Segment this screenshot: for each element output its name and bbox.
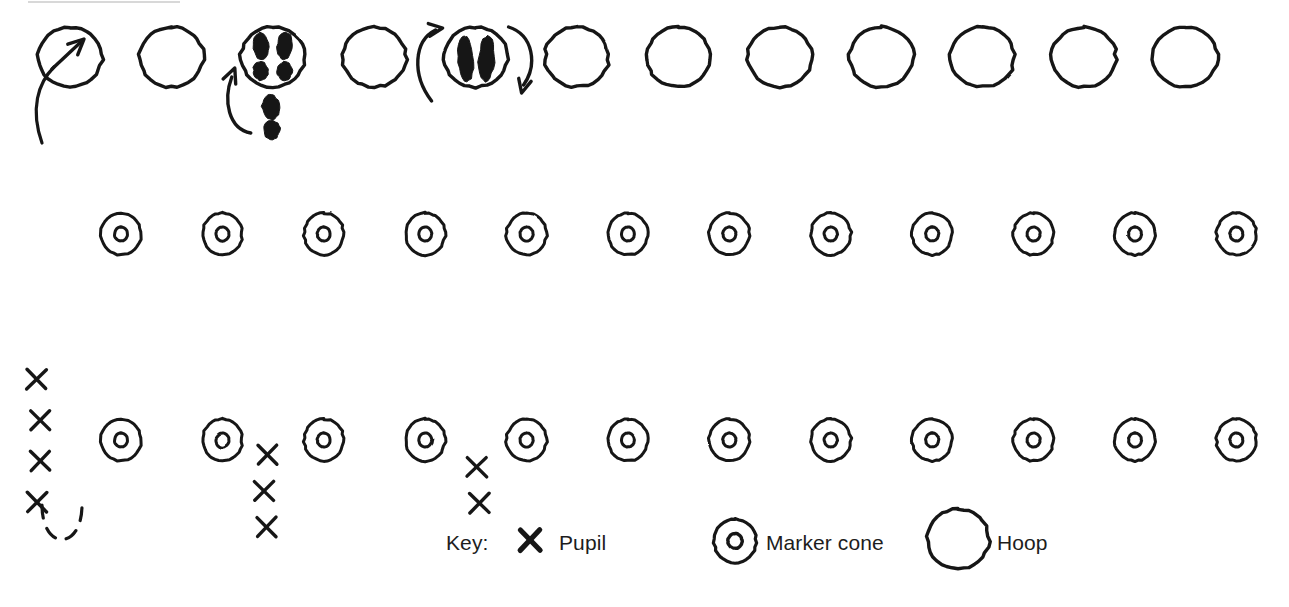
hoop-row bbox=[37, 26, 1218, 88]
marker-cone bbox=[506, 213, 548, 255]
marker-cone-inner bbox=[216, 433, 229, 447]
marker-cone bbox=[911, 213, 952, 256]
marker-cone-inner bbox=[1230, 227, 1243, 241]
marker-cone-inner bbox=[926, 227, 939, 241]
marker-cone bbox=[203, 418, 242, 460]
run-in-arrow-tail bbox=[36, 67, 54, 143]
marker-cone-outer bbox=[506, 419, 548, 461]
marker-cone-outer bbox=[811, 419, 852, 462]
marker-cone-outer bbox=[303, 212, 344, 255]
footprint-left-heel bbox=[253, 61, 268, 80]
marker-cone bbox=[1114, 418, 1155, 461]
marker-cone bbox=[506, 419, 548, 461]
legend-icons-layer bbox=[520, 509, 990, 569]
marker-cone-inner bbox=[621, 433, 634, 447]
hoop bbox=[443, 27, 508, 88]
marker-cone-inner bbox=[317, 227, 330, 241]
queue-lane-one bbox=[27, 369, 50, 512]
marker-cone-outer bbox=[608, 213, 648, 255]
marker-cone-outer bbox=[1114, 418, 1155, 461]
hoop bbox=[545, 27, 609, 88]
marker-cone-inner bbox=[1230, 433, 1243, 447]
marker-cone bbox=[100, 419, 141, 461]
pupil-marks-layer bbox=[27, 369, 490, 537]
marker-cone-inner bbox=[1128, 227, 1141, 241]
marker-cone bbox=[203, 212, 242, 254]
queue-lane-two bbox=[254, 445, 277, 537]
marker-cone-inner bbox=[115, 227, 128, 241]
hoop bbox=[747, 27, 813, 88]
footprint-right-ball bbox=[277, 32, 293, 60]
rotate-right-arrow-tail bbox=[509, 27, 532, 85]
marker-cone-outer bbox=[406, 212, 446, 255]
marker-cone-outer bbox=[608, 419, 648, 461]
marker-cone-outer bbox=[100, 213, 141, 255]
hop-arrow-tail bbox=[228, 77, 251, 133]
marker-cone bbox=[1013, 419, 1054, 461]
marker-cone-inner bbox=[520, 227, 533, 241]
marker-cone-inner bbox=[216, 227, 229, 241]
marker-cone-inner bbox=[926, 433, 939, 447]
marker-cone-outer bbox=[1114, 212, 1155, 255]
footprint-takeoff-heel bbox=[264, 121, 281, 140]
legend-hoop-outline bbox=[927, 509, 991, 569]
marker-cone bbox=[608, 419, 648, 461]
marker-cone-inner bbox=[520, 433, 533, 447]
marker-cone bbox=[100, 213, 141, 255]
marker-cone-inner bbox=[824, 227, 838, 241]
footprint-right-together bbox=[478, 35, 495, 82]
marker-cone-outer bbox=[100, 419, 141, 461]
marker-cone-outer bbox=[708, 213, 749, 255]
marker-cone bbox=[406, 418, 446, 461]
marker-cone bbox=[1114, 212, 1155, 255]
marker-cone-outer bbox=[1013, 213, 1054, 255]
marker-cone-outer bbox=[1216, 419, 1256, 461]
marker-cone bbox=[303, 418, 344, 461]
diagram-stage: Key: Pupil Marker cone Hoop bbox=[0, 0, 1289, 607]
marker-cone bbox=[811, 213, 852, 256]
marker-cone bbox=[303, 212, 344, 255]
marker-cone-inner bbox=[419, 227, 432, 241]
marker-cone bbox=[1216, 213, 1256, 255]
queue-lane-three bbox=[467, 458, 489, 513]
marker-cone-inner bbox=[723, 433, 736, 447]
footprint-left-ball bbox=[253, 32, 269, 60]
legend-cone-outer bbox=[713, 518, 756, 563]
hoop bbox=[1152, 27, 1219, 87]
marker-cone-inner bbox=[419, 433, 432, 447]
marker-cone bbox=[608, 213, 648, 255]
marker-cone bbox=[811, 419, 852, 462]
marker-cone-inner bbox=[115, 433, 128, 447]
marker-cone-inner bbox=[621, 227, 634, 241]
marker-cone bbox=[406, 212, 446, 255]
marker-cone-inner bbox=[1027, 433, 1040, 447]
marker-cone bbox=[911, 419, 952, 462]
legend-hoop-icon bbox=[927, 509, 991, 569]
marker-cone-row-middle bbox=[100, 212, 1256, 255]
marker-cone-outer bbox=[911, 213, 952, 256]
marker-cone-outer bbox=[1216, 213, 1256, 255]
lane-lines-layer bbox=[42, 70, 465, 540]
marker-cone-inner bbox=[317, 433, 330, 447]
marker-cone bbox=[708, 419, 749, 461]
rotate-left-arrow-tail bbox=[418, 30, 436, 101]
diagram-canvas bbox=[0, 0, 1289, 607]
hoop bbox=[240, 27, 305, 88]
marker-cone-outer bbox=[203, 418, 242, 460]
marker-cone-outer bbox=[506, 213, 548, 255]
hoop bbox=[342, 26, 407, 87]
marker-cone-outer bbox=[406, 418, 446, 461]
marker-cone-row-bottom bbox=[100, 418, 1256, 461]
legend-marker-cone-icon bbox=[713, 518, 756, 563]
marker-cone-outer bbox=[203, 212, 242, 254]
footprint-right-heel bbox=[277, 61, 293, 80]
legend-cone-inner bbox=[728, 533, 743, 548]
marker-cone-inner bbox=[824, 433, 838, 447]
marker-cone-outer bbox=[811, 213, 852, 256]
footprint-takeoff-ball bbox=[261, 94, 280, 120]
marker-cone-inner bbox=[723, 227, 736, 241]
marker-cone-outer bbox=[303, 418, 344, 461]
marker-cone-inner bbox=[1128, 433, 1141, 447]
marker-cone bbox=[708, 213, 749, 255]
marker-cone-outer bbox=[911, 419, 952, 462]
